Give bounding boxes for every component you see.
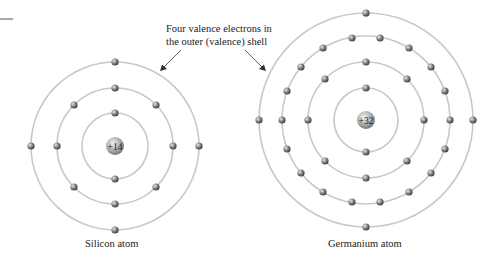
germanium-label: Germanium atom [328, 238, 402, 249]
valence-callout: Four valence electrons in the outer (val… [166, 22, 272, 48]
silicon-nucleus-charge: +14 [108, 142, 123, 152]
germanium-nucleus-charge: +32 [359, 116, 374, 126]
germanium-atom: +32 [255, 9, 476, 230]
silicon-label: Silicon atom [85, 238, 138, 249]
callout-line-1: Four valence electrons in [166, 22, 272, 35]
callout-line-2: the outer (valence) shell [166, 35, 272, 48]
silicon-atom: +14 [27, 58, 202, 233]
callout-arrows [160, 50, 266, 71]
